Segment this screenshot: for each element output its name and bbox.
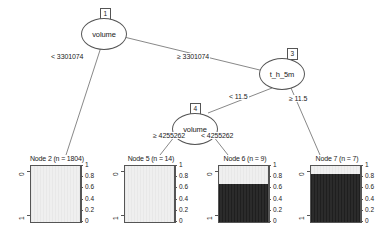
y-axis-tick-label: 0.8 bbox=[179, 173, 188, 180]
inner-node-1-label: volume bbox=[92, 30, 116, 39]
edge-label-node4-right: < 4255262 bbox=[200, 132, 234, 139]
terminal-node-panel[interactable]: Node 7 (n = 7)10.80.60.40.2001 bbox=[294, 155, 380, 233]
y-axis-tick-label: 1 bbox=[85, 162, 89, 169]
y-axis-tick bbox=[80, 165, 83, 166]
y-axis-tick bbox=[174, 199, 177, 200]
x-axis-category-label: 1 bbox=[113, 216, 120, 220]
edge-label-node3-right: ≥ 11.5 bbox=[288, 95, 308, 102]
bar-segment-dark bbox=[219, 184, 269, 222]
edge-label-node4-left: ≥ 4255262 bbox=[152, 132, 186, 139]
y-axis-tick bbox=[268, 210, 271, 211]
x-axis-category-label: 0 bbox=[207, 172, 214, 176]
y-axis-tick-label: 1 bbox=[179, 162, 183, 169]
y-axis-tick-label: 0.2 bbox=[85, 207, 94, 214]
y-axis-tick-label: 0.2 bbox=[273, 207, 282, 214]
tree-plot-canvas: 1 volume 3 t_h_5m 4 volume < 3301074 ≥ 3… bbox=[0, 0, 386, 235]
x-axis-category-label: 0 bbox=[299, 172, 306, 176]
y-axis-spine bbox=[360, 165, 361, 221]
x-axis-tick bbox=[215, 215, 218, 216]
terminal-node-barplot bbox=[30, 165, 82, 223]
terminal-node-panel[interactable]: Node 5 (n = 14)10.80.60.40.2001 bbox=[108, 155, 194, 233]
y-axis-tick bbox=[268, 165, 271, 166]
terminal-node-panel[interactable]: Node 2 (n = 1804)10.80.60.40.2001 bbox=[14, 155, 100, 233]
y-axis-tick-label: 1 bbox=[273, 162, 277, 169]
y-axis-tick bbox=[174, 210, 177, 211]
bar-segment-light bbox=[311, 166, 361, 174]
y-axis: 10.80.60.40.20 bbox=[268, 165, 288, 221]
inner-node-3[interactable]: t_h_5m bbox=[259, 58, 305, 90]
y-axis: 10.80.60.40.20 bbox=[80, 165, 100, 221]
y-axis-tick-label: 0.2 bbox=[365, 207, 374, 214]
x-axis-category-label: 1 bbox=[19, 216, 26, 220]
y-axis-tick-label: 0.6 bbox=[85, 184, 94, 191]
y-axis-tick-label: 0.4 bbox=[365, 196, 374, 203]
y-axis-tick-label: 0.4 bbox=[273, 196, 282, 203]
y-axis-tick bbox=[360, 221, 363, 222]
y-axis-tick-label: 0.6 bbox=[273, 184, 282, 191]
x-axis-tick bbox=[121, 215, 124, 216]
y-axis-tick-label: 0.2 bbox=[179, 207, 188, 214]
y-axis-tick-label: 0 bbox=[85, 218, 89, 225]
bar-segment-light bbox=[125, 166, 175, 222]
x-axis-tick bbox=[307, 171, 310, 172]
y-axis: 10.80.60.40.20 bbox=[360, 165, 380, 221]
y-axis-tick-label: 0.8 bbox=[273, 173, 282, 180]
edge-label-node3-left: < 11.5 bbox=[228, 93, 249, 100]
y-axis-tick bbox=[174, 221, 177, 222]
y-axis-tick bbox=[268, 187, 271, 188]
y-axis-tick bbox=[360, 176, 363, 177]
y-axis-tick-label: 0.8 bbox=[365, 173, 374, 180]
y-axis-tick bbox=[80, 187, 83, 188]
x-axis-tick bbox=[27, 215, 30, 216]
bar-segment-light bbox=[31, 166, 81, 222]
x-axis-tick bbox=[121, 171, 124, 172]
y-axis-tick bbox=[360, 210, 363, 211]
x-axis-category-label: 0 bbox=[113, 172, 120, 176]
y-axis-tick-label: 0.4 bbox=[179, 196, 188, 203]
bar-segment-dark bbox=[311, 174, 361, 222]
inner-node-1[interactable]: volume bbox=[81, 18, 127, 50]
y-axis-tick bbox=[80, 199, 83, 200]
y-axis-spine bbox=[174, 165, 175, 221]
y-axis-tick-label: 0 bbox=[365, 218, 369, 225]
y-axis-tick bbox=[268, 176, 271, 177]
y-axis-tick bbox=[80, 176, 83, 177]
y-axis-tick bbox=[174, 176, 177, 177]
x-axis-tick bbox=[27, 171, 30, 172]
terminal-node-barplot bbox=[124, 165, 176, 223]
y-axis-tick-label: 0.6 bbox=[365, 184, 374, 191]
y-axis-tick-label: 0.8 bbox=[85, 173, 94, 180]
terminal-node-panel[interactable]: Node 6 (n = 9)10.80.60.40.2001 bbox=[202, 155, 288, 233]
x-axis-tick bbox=[307, 215, 310, 216]
y-axis-tick-label: 0 bbox=[273, 218, 277, 225]
x-axis-tick bbox=[215, 171, 218, 172]
y-axis-tick bbox=[268, 199, 271, 200]
edge-label-node1-right: ≥ 3301074 bbox=[176, 53, 210, 60]
y-axis-tick bbox=[80, 221, 83, 222]
y-axis-tick bbox=[174, 187, 177, 188]
y-axis-tick bbox=[174, 165, 177, 166]
y-axis: 10.80.60.40.20 bbox=[174, 165, 194, 221]
inner-node-4[interactable]: volume bbox=[172, 113, 218, 145]
x-axis-category-label: 1 bbox=[207, 216, 214, 220]
y-axis-tick-label: 0 bbox=[179, 218, 183, 225]
y-axis-spine bbox=[268, 165, 269, 221]
x-axis-category-label: 0 bbox=[19, 172, 26, 176]
y-axis-tick-label: 0.4 bbox=[85, 196, 94, 203]
terminal-node-barplot bbox=[218, 165, 270, 223]
y-axis-tick bbox=[360, 199, 363, 200]
y-axis-tick bbox=[360, 187, 363, 188]
x-axis-category-label: 1 bbox=[299, 216, 306, 220]
y-axis-tick-label: 1 bbox=[365, 162, 369, 169]
edge-label-node1-left: < 3301074 bbox=[50, 53, 84, 60]
y-axis-tick bbox=[80, 210, 83, 211]
y-axis-spine bbox=[80, 165, 81, 221]
terminal-node-barplot bbox=[310, 165, 362, 223]
y-axis-tick bbox=[360, 165, 363, 166]
y-axis-tick-label: 0.6 bbox=[179, 184, 188, 191]
inner-node-3-label: t_h_5m bbox=[270, 70, 294, 79]
bar-segment-light bbox=[219, 166, 269, 184]
y-axis-tick bbox=[268, 221, 271, 222]
